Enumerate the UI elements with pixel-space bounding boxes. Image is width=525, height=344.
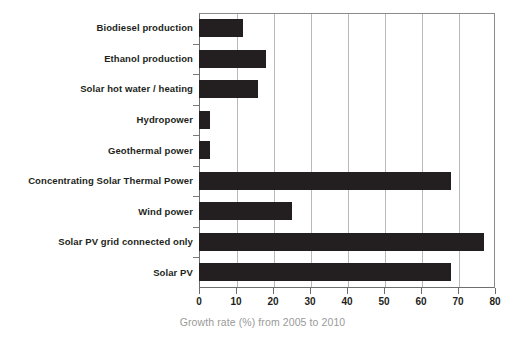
x-axis-tick-label: 60	[415, 296, 426, 307]
bar	[199, 19, 243, 37]
x-axis-caption: Growth rate (%) from 2005 to 2010	[0, 316, 525, 328]
category-label: Wind power	[0, 206, 193, 218]
x-axis-tick	[347, 288, 348, 294]
bar-row	[199, 44, 495, 75]
category-axis-labels: Biodiesel productionEthanol productionSo…	[0, 13, 193, 288]
bar-chart: Biodiesel productionEthanol productionSo…	[0, 0, 525, 344]
bar	[199, 141, 210, 159]
x-axis-tick	[495, 288, 496, 294]
category-label: Concentrating Solar Thermal Power	[0, 175, 193, 187]
category-label: Biodiesel production	[0, 22, 193, 34]
bar-row	[199, 166, 495, 197]
bar	[199, 172, 451, 190]
category-label: Solar hot water / heating	[0, 83, 193, 95]
y-axis-tick	[193, 135, 199, 136]
bars-layer	[199, 13, 495, 288]
y-axis-tick	[193, 105, 199, 106]
x-axis-tick-label: 10	[230, 296, 241, 307]
category-label: Geothermal power	[0, 145, 193, 157]
y-axis-tick	[193, 196, 199, 197]
category-label: Ethanol production	[0, 53, 193, 65]
bar	[199, 111, 210, 129]
bar-row	[199, 257, 495, 288]
category-label: Hydropower	[0, 114, 193, 126]
x-axis-tick	[310, 288, 311, 294]
x-axis-tick	[421, 288, 422, 294]
bar-row	[199, 227, 495, 258]
x-axis-tick	[273, 288, 274, 294]
x-axis-tick-label: 30	[304, 296, 315, 307]
bar	[199, 263, 451, 281]
category-label: Solar PV grid connected only	[0, 236, 193, 248]
y-axis-tick	[193, 257, 199, 258]
x-axis-tick-label: 40	[341, 296, 352, 307]
x-axis-tick-label: 0	[196, 296, 202, 307]
x-axis-tick	[236, 288, 237, 294]
bar-row	[199, 105, 495, 136]
y-axis-tick	[193, 166, 199, 167]
bar-row	[199, 13, 495, 44]
bar-row	[199, 74, 495, 105]
x-axis-tick-label: 50	[378, 296, 389, 307]
bar-row	[199, 196, 495, 227]
bar	[199, 80, 258, 98]
x-axis-tick-label: 80	[489, 296, 500, 307]
x-axis-tick-label: 20	[267, 296, 278, 307]
x-axis-tick-label: 70	[452, 296, 463, 307]
bar	[199, 233, 484, 251]
bar	[199, 202, 292, 220]
bar-row	[199, 135, 495, 166]
x-axis-tick	[199, 288, 200, 294]
bar	[199, 50, 266, 68]
category-label: Solar PV	[0, 267, 193, 279]
y-axis-tick	[193, 74, 199, 75]
y-axis-tick	[193, 44, 199, 45]
x-axis-tick	[458, 288, 459, 294]
y-axis-tick	[193, 227, 199, 228]
x-axis-tick	[384, 288, 385, 294]
